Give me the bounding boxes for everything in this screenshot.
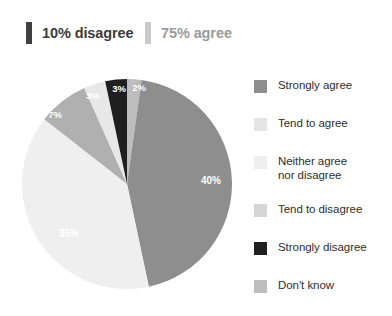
legend-swatch-tend-to-agree-icon	[254, 118, 267, 131]
legend-label-strongly-disagree: Strongly disagree	[278, 240, 367, 254]
pie-slice-label: 3%	[86, 90, 100, 101]
pie-slice-label: 2%	[132, 82, 146, 93]
pie-slice-label: 40%	[201, 175, 221, 186]
pie-slice-label: 7%	[48, 109, 62, 120]
legend-item-tend-to-agree[interactable]: Tend to agree	[254, 116, 348, 131]
summary-strip: 10% disagree 75% agree	[0, 0, 392, 58]
legend-swatch-tend-to-disagree-icon	[254, 204, 267, 217]
summary-bar-agree-icon	[145, 22, 151, 44]
legend-swatch-dont-know-icon	[254, 280, 267, 293]
legend-label-dont-know: Don't know	[278, 278, 334, 292]
legend-item-tend-to-disagree[interactable]: Tend to disagree	[254, 202, 362, 217]
legend-swatch-strongly-disagree-icon	[254, 242, 267, 255]
summary-item-agree: 75% agree	[145, 22, 232, 44]
legend-label-strongly-agree: Strongly agree	[278, 78, 352, 92]
pie-slice-label: 3%	[112, 83, 126, 94]
summary-label-agree: 75% agree	[161, 26, 232, 41]
pie-chart: 2%40%35%7%3%3%	[21, 62, 233, 306]
pie-slice-label: 35%	[59, 228, 79, 239]
legend-swatch-neither-agree-nor-disagree-icon	[254, 156, 267, 169]
summary-bar-disagree-icon	[26, 22, 32, 44]
legend-item-dont-know[interactable]: Don't know	[254, 278, 334, 293]
summary-label-disagree: 10% disagree	[42, 26, 134, 41]
summary-item-disagree: 10% disagree	[26, 22, 134, 44]
pie-chart-page: 10% disagree 75% agree 2%40%35%7%3%3% St…	[0, 0, 392, 316]
legend-label-tend-to-agree: Tend to agree	[278, 116, 348, 130]
legend-item-neither-agree-nor-disagree[interactable]: Neither agree nor disagree	[254, 154, 347, 182]
legend-item-strongly-agree[interactable]: Strongly agree	[254, 78, 352, 93]
legend-label-neither-agree-nor-disagree: Neither agree nor disagree	[278, 154, 347, 182]
legend-swatch-strongly-agree-icon	[254, 80, 267, 93]
legend-label-tend-to-disagree: Tend to disagree	[278, 202, 362, 216]
pie-chart-svg: 2%40%35%7%3%3%	[21, 62, 233, 306]
legend-item-strongly-disagree[interactable]: Strongly disagree	[254, 240, 367, 255]
